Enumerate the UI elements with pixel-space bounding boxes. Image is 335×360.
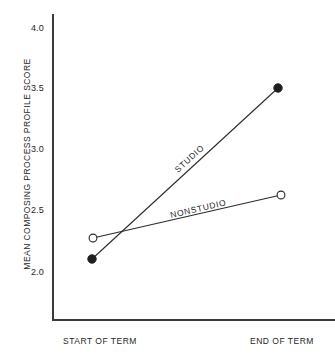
nonstudio-series-label: NONSTUDIO: [169, 197, 227, 220]
nonstudio-point-end: [277, 191, 285, 199]
studio-line: [92, 88, 278, 259]
nonstudio-line: [93, 195, 281, 238]
studio-point-end: [274, 84, 282, 92]
plot-area: STUDIO NONSTUDIO: [0, 0, 335, 360]
chart-figure: MEAN COMPOSING PROCESS PROFILE SCORE 4.0…: [0, 0, 335, 360]
studio-point-start: [88, 255, 96, 263]
nonstudio-point-start: [89, 234, 97, 242]
